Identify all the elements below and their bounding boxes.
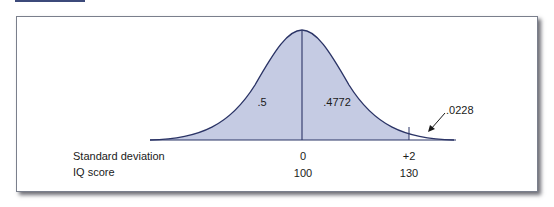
area-label-tail: .0228: [446, 104, 474, 116]
tail-arrow: [431, 113, 445, 129]
iq-tick-100: 100: [294, 167, 312, 179]
area-label-right: .4772: [323, 96, 351, 108]
area-label-left: .5: [257, 96, 266, 108]
sd-tick-plus2: +2: [403, 150, 416, 162]
row-label-sd: Standard deviation: [73, 150, 165, 162]
iq-tick-130: 130: [400, 167, 418, 179]
sd-tick-0: 0: [300, 150, 306, 162]
row-label-iq: IQ score: [73, 166, 115, 178]
